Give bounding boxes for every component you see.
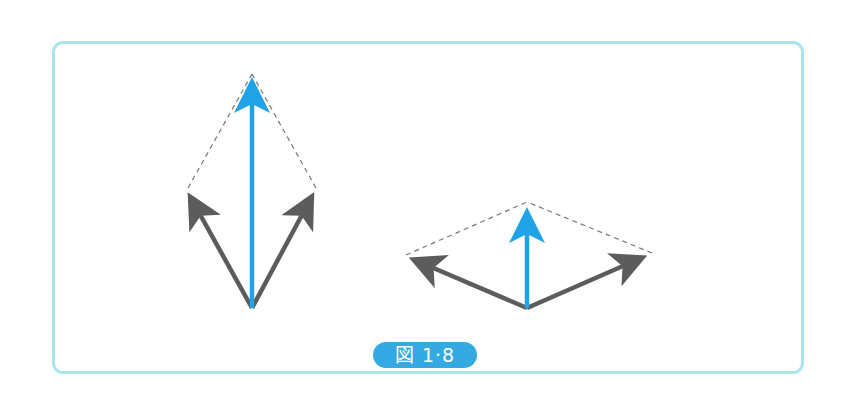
guide-dashed-left [188, 74, 252, 188]
guide-dashed-right [527, 202, 652, 253]
guide-dashed-left [406, 202, 527, 255]
diagram-narrow-angle [188, 74, 316, 308]
figure-label: 図 1·8 [373, 342, 477, 368]
component-vector-left-arrow [192, 200, 252, 308]
component-vector-right-arrow [252, 200, 310, 308]
component-vector-right-arrow [527, 259, 639, 308]
diagram-wide-angle [406, 202, 652, 308]
guide-dashed-right [252, 74, 316, 188]
component-vector-left-arrow [417, 261, 527, 308]
